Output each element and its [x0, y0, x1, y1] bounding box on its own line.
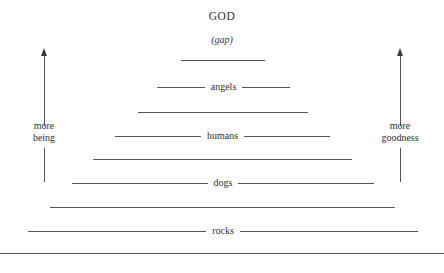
row-label-dogs: dogs [208, 178, 239, 188]
row-line-right [244, 136, 330, 137]
row-line-right [238, 183, 374, 184]
arrow-shaft-lower-left [44, 148, 45, 182]
row-line-left [50, 207, 395, 208]
row-line-left [157, 87, 205, 88]
arrow-shaft-lower-right [400, 148, 401, 182]
row-line-left [93, 159, 352, 160]
row-line-right [240, 231, 418, 232]
god-label: GOD [0, 10, 444, 22]
hierarchy-row-divider-6 [50, 201, 395, 213]
more-being-line2: being [14, 132, 74, 144]
row-line-left [181, 60, 265, 61]
more-goodness-axis: more goodness [370, 48, 430, 182]
arrow-up-icon-right [397, 48, 403, 56]
more-goodness-line2: goodness [370, 132, 430, 144]
row-line-left [138, 112, 308, 113]
row-label-angels: angels [205, 82, 243, 92]
row-line-right [242, 87, 290, 88]
gap-label: (gap) [0, 34, 444, 45]
row-label-humans: humans [201, 131, 244, 141]
hierarchy-row-rocks: rocks [28, 225, 418, 237]
more-being-line1: more [14, 120, 74, 132]
hierarchy-row-divider-2 [138, 106, 308, 118]
hierarchy-row-divider-4 [93, 153, 352, 165]
row-line-left [28, 231, 206, 232]
more-goodness-label: more goodness [370, 120, 430, 144]
more-being-label: more being [14, 120, 74, 144]
hierarchy-row-angels: angels [157, 81, 290, 93]
hierarchy-row-dogs: dogs [72, 177, 374, 189]
row-line-left [72, 183, 208, 184]
row-line-left [115, 136, 201, 137]
more-goodness-line1: more [370, 120, 430, 132]
hierarchy-row-divider-0 [181, 54, 265, 66]
great-chain-of-being-diagram: GOD (gap) angelshumansdogsrocks more bei… [0, 0, 444, 273]
base-rule [0, 253, 444, 254]
row-label-rocks: rocks [206, 226, 240, 236]
arrow-up-icon-left [41, 48, 47, 56]
hierarchy-row-humans: humans [115, 130, 330, 142]
arrow-shaft-upper-right [400, 56, 401, 126]
arrow-shaft-upper-left [44, 56, 45, 126]
more-being-axis: more being [14, 48, 74, 182]
